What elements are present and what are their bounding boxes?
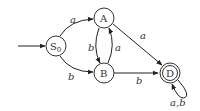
- state-d-accepting: D: [160, 63, 180, 83]
- edge-label-s0-b: b: [68, 71, 74, 82]
- state-label-b: B: [100, 68, 107, 79]
- state-b: B: [94, 63, 114, 83]
- edge-label-a-b: b: [88, 42, 94, 53]
- edge-label-b-a: a: [115, 42, 121, 53]
- state-label-a: A: [99, 13, 108, 24]
- edge-s0-b: [60, 56, 93, 72]
- edge-label-b-d: b: [136, 75, 142, 86]
- automaton-diagram: a b b a a b a,b S0 A B D: [0, 0, 200, 111]
- edge-label-d-d: a,b: [170, 97, 186, 108]
- edge-a-b: [96, 28, 100, 63]
- edge-d-d: [172, 80, 187, 98]
- edge-s0-a: [60, 19, 93, 36]
- state-s0: S0: [46, 36, 66, 56]
- edge-label-s0-a: a: [70, 14, 76, 25]
- edge-label-a-d: a: [140, 30, 146, 41]
- state-label-d: D: [166, 68, 174, 79]
- state-subscript-s0: 0: [57, 46, 61, 54]
- state-a: A: [94, 8, 114, 28]
- edge-b-a: [108, 28, 112, 63]
